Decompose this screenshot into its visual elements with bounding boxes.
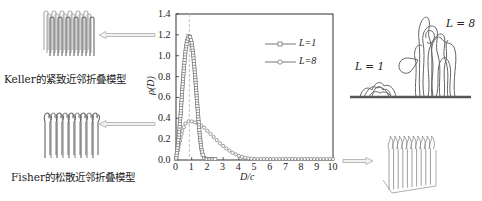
- circle-marker-icon: [322, 157, 325, 160]
- chain-conformation-illustration: [350, 17, 471, 97]
- x-tick-label: 2: [204, 161, 209, 172]
- circle-marker-icon: [190, 120, 193, 123]
- circle-marker-icon: [278, 157, 281, 160]
- circle-marker-icon: [262, 157, 265, 160]
- x-tick-label: 6: [267, 161, 272, 172]
- square-marker-icon: [201, 153, 204, 156]
- circle-marker-icon: [228, 149, 231, 152]
- circle-marker-icon: [240, 155, 243, 158]
- loose-fold-crystal-block-icon: [383, 136, 436, 193]
- circle-marker-icon: [243, 156, 246, 159]
- circle-marker-icon: [306, 157, 309, 160]
- dense-adjacent-fold-lamella-icon: [44, 11, 94, 56]
- L8-chain-bundle: [399, 17, 456, 97]
- square-marker-icon: [189, 35, 192, 38]
- circle-marker-icon: [303, 157, 306, 160]
- square-marker-icon: [189, 38, 192, 41]
- circle-marker-icon: [278, 60, 282, 64]
- circle-marker-icon: [291, 157, 294, 160]
- circle-marker-icon: [203, 126, 206, 129]
- circle-marker-icon: [215, 139, 218, 142]
- x-tick-label: 4: [236, 161, 241, 172]
- circle-marker-icon: [206, 129, 209, 132]
- circle-marker-icon: [272, 157, 275, 160]
- circle-marker-icon: [231, 151, 234, 154]
- y-tick-label: 1.2: [158, 29, 171, 40]
- circle-marker-icon: [247, 157, 250, 160]
- x-axis-label: D/c: [240, 171, 254, 182]
- y-tick-label: 0.0: [158, 154, 171, 165]
- circle-marker-icon: [225, 147, 228, 150]
- y-tick-label: 1.0: [158, 50, 171, 61]
- arrow-left-icon: [99, 121, 155, 128]
- arrow-right-icon: [343, 158, 373, 165]
- circle-marker-icon: [259, 157, 262, 160]
- x-tick-label: 1: [189, 161, 194, 172]
- circle-marker-icon: [309, 157, 312, 160]
- circle-marker-icon: [218, 142, 221, 145]
- label-L1: L = 1: [355, 60, 384, 72]
- x-tick-label: 10: [328, 161, 338, 172]
- x-tick-label: 7: [283, 161, 288, 172]
- y-tick-label: 1.4: [158, 8, 171, 19]
- circle-marker-icon: [209, 132, 212, 135]
- arrow-left-icon: [99, 32, 155, 39]
- label-L8: L = 8: [446, 17, 475, 29]
- circle-marker-icon: [187, 120, 190, 123]
- chart-plot-area: [174, 14, 334, 161]
- y-tick-label: 0.2: [158, 133, 171, 144]
- circle-marker-icon: [319, 157, 322, 160]
- y-tick-label: 0.4: [158, 112, 171, 123]
- y-axis-label: ρ(D): [145, 76, 156, 95]
- circle-marker-icon: [182, 126, 185, 129]
- chart-legend: [265, 42, 296, 64]
- legend-label-L8: L=8: [299, 55, 316, 66]
- circle-marker-icon: [184, 122, 187, 125]
- square-marker-icon: [214, 157, 217, 160]
- circle-marker-icon: [222, 144, 225, 147]
- circle-marker-icon: [275, 157, 278, 160]
- circle-marker-icon: [256, 157, 259, 160]
- loose-adjacent-fold-lamella-icon: [44, 113, 99, 158]
- circle-marker-icon: [193, 121, 196, 124]
- circle-marker-icon: [237, 154, 240, 157]
- y-tick-label: 0.6: [158, 91, 171, 102]
- x-tick-label: 5: [252, 161, 257, 172]
- circle-marker-icon: [212, 135, 215, 138]
- circle-marker-icon: [294, 157, 297, 160]
- circle-marker-icon: [234, 153, 237, 156]
- x-tick-label: 8: [299, 161, 304, 172]
- fisher-model-caption: Fisher的松散近邻折叠模型: [11, 169, 135, 184]
- y-tick-label: 0.8: [158, 71, 171, 82]
- x-tick-label: 3: [220, 161, 225, 172]
- circle-marker-icon: [287, 157, 290, 160]
- keller-model-caption: Keller的紧致近邻折叠模型: [4, 71, 126, 86]
- x-tick-label: 0: [173, 161, 178, 172]
- square-marker-icon: [278, 42, 282, 46]
- circle-marker-icon: [250, 157, 253, 160]
- x-tick-label: 9: [314, 161, 319, 172]
- legend-label-L1: L=1: [299, 37, 316, 48]
